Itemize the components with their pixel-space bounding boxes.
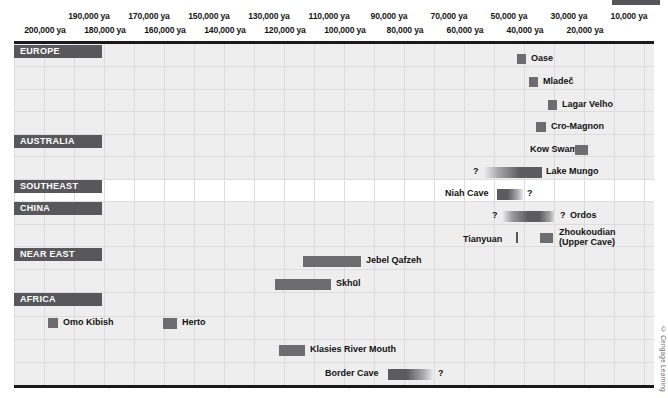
region-tag-europe: EUROPE <box>14 45 102 58</box>
row-separator <box>14 269 654 270</box>
gridline <box>194 44 195 385</box>
band-southeast-asia <box>14 179 654 201</box>
bar-cro-magnon <box>536 122 546 132</box>
bar-label-niah-cave: Niah Cave <box>445 188 489 199</box>
bar-mladec <box>529 77 538 87</box>
bar-lake-mungo <box>484 167 542 178</box>
copyright-credit: © Cengage Learning <box>660 326 667 392</box>
gridline <box>314 44 315 385</box>
region-tag-australia: AUSTRALIA <box>14 135 102 148</box>
bar-label-ordos: Ordos <box>570 210 597 221</box>
corner-mark <box>612 0 660 5</box>
bar-tianyuan <box>516 232 518 243</box>
bar-label-lake-mungo: Lake Mungo <box>546 166 599 177</box>
axis-tick: 50,000 ya <box>491 11 528 21</box>
bar-label-omo-kibish: Omo Kibish <box>63 317 114 328</box>
region-tag-southeast-asia: SOUTHEAST ASIA <box>14 180 102 193</box>
axis-tick: 180,000 ya <box>84 25 126 35</box>
row-separator <box>14 339 654 340</box>
gridline <box>224 44 225 385</box>
uncertainty-marker-border-cave-right: ? <box>438 368 444 379</box>
bar-skhul <box>275 279 331 290</box>
gridline <box>344 44 345 385</box>
bar-kow-swamp <box>575 145 588 155</box>
gridline <box>404 44 405 385</box>
uncertainty-marker-ordos-right: ? <box>560 210 566 221</box>
axis-tick: 140,000 ya <box>204 25 246 35</box>
gridline <box>134 44 135 385</box>
axis-tick: 190,000 ya <box>68 11 110 21</box>
row-separator <box>14 362 654 363</box>
row-separator <box>14 111 654 112</box>
bar-zhoukoudian <box>540 233 553 243</box>
gridline <box>644 44 645 385</box>
axis-tick: 200,000 ya <box>24 25 66 35</box>
bar-label-mladec: Mladeč <box>543 76 574 87</box>
axis-tick: 40,000 ya <box>507 25 544 35</box>
human-dispersal-timeline-chart: 190,000 ya 170,000 ya 150,000 ya 130,000… <box>0 0 668 398</box>
bar-label-lagar-velho: Lagar Velho <box>562 99 613 110</box>
axis-tick: 160,000 ya <box>144 25 186 35</box>
bar-label-border-cave: Border Cave <box>325 368 379 379</box>
uncertainty-marker-ordos-left: ? <box>492 210 498 221</box>
axis-tick: 30,000 ya <box>551 11 588 21</box>
gridline <box>254 44 255 385</box>
row-separator <box>14 201 654 202</box>
row-separator <box>14 179 654 180</box>
gridline <box>434 44 435 385</box>
bar-label-zhoukoudian-text: Zhoukoudian(Upper Cave) <box>559 227 616 247</box>
bar-oase <box>517 54 526 64</box>
axis-tick: 120,000 ya <box>264 25 306 35</box>
bar-label-tianyuan: Tianyuan <box>463 234 502 245</box>
bar-ordos <box>503 211 555 222</box>
row-separator <box>14 292 654 293</box>
bar-label-cro-magnon: Cro-Magnon <box>551 121 604 132</box>
gridline <box>464 44 465 385</box>
axis-tick: 60,000 ya <box>447 25 484 35</box>
region-tag-china: CHINA <box>14 202 102 215</box>
gridline <box>374 44 375 385</box>
bar-klasies-river-mouth <box>279 345 305 356</box>
bar-label-skhul: Skhūl <box>336 278 361 289</box>
bar-lagar-velho <box>548 100 557 110</box>
row-separator <box>14 66 654 67</box>
row-separator <box>14 89 654 90</box>
bar-niah-cave <box>497 189 523 200</box>
axis-tick: 20,000 ya <box>567 25 604 35</box>
row-separator <box>14 134 654 135</box>
gridline <box>104 44 105 385</box>
region-tag-near-east: NEAR EAST <box>14 248 102 261</box>
axis-tick: 170,000 ya <box>128 11 170 21</box>
bar-label-zhoukoudian: Zhoukoudian(Upper Cave) <box>559 228 616 247</box>
bar-jebel-qafzeh <box>303 256 361 267</box>
axis-tick: 90,000 ya <box>371 11 408 21</box>
axis-tick: 10,000 ya <box>611 11 648 21</box>
region-tag-africa: AFRICA <box>14 293 102 306</box>
axis-ticks-top: 190,000 ya 170,000 ya 150,000 ya 130,000… <box>0 11 668 23</box>
axis-tick: 150,000 ya <box>188 11 230 21</box>
row-separator <box>14 246 654 247</box>
plot-area: EUROPE AUSTRALIA SOUTHEAST ASIA CHINA NE… <box>14 44 654 385</box>
axis-tick: 130,000 ya <box>248 11 290 21</box>
gridline <box>164 44 165 385</box>
bar-label-klasies-river-mouth: Klasies River Mouth <box>310 344 396 355</box>
gridline <box>614 44 615 385</box>
axis-tick: 110,000 ya <box>308 11 349 21</box>
row-separator <box>14 156 654 157</box>
bar-herto <box>163 318 177 329</box>
axis-bottom-rule <box>14 385 654 388</box>
bar-label-oase: Oase <box>531 53 553 64</box>
axis-tick: 100,000 ya <box>324 25 366 35</box>
bar-label-herto: Herto <box>182 317 206 328</box>
uncertainty-marker-niah-cave-right: ? <box>527 188 533 199</box>
axis-tick: 80,000 ya <box>387 25 424 35</box>
uncertainty-marker-lake-mungo-left: ? <box>473 166 479 177</box>
bar-border-cave <box>388 369 433 380</box>
axis-ticks-bottom: 200,000 ya 180,000 ya 160,000 ya 140,000… <box>0 25 668 37</box>
gridline <box>284 44 285 385</box>
row-separator <box>14 224 654 225</box>
bar-label-jebel-qafzeh: Jebel Qafzeh <box>366 255 422 266</box>
bar-omo-kibish <box>48 318 58 328</box>
axis-tick: 70,000 ya <box>431 11 468 21</box>
